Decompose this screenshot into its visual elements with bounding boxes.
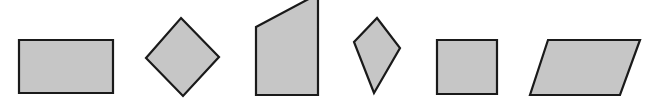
quadrilaterals-figure (0, 0, 652, 108)
shape-canvas (0, 0, 652, 108)
shape-rectangle (19, 40, 113, 93)
shape-square (437, 40, 497, 94)
shape-parallelogram (530, 40, 640, 95)
